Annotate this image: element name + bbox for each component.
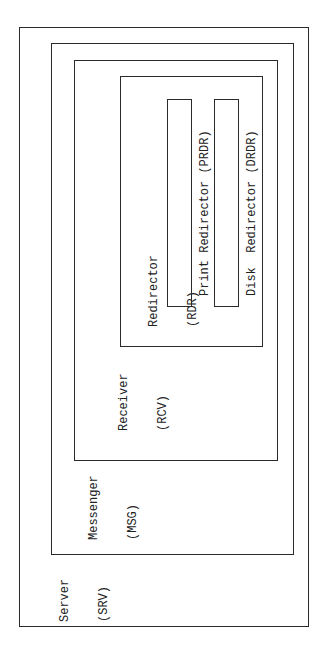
server-abbr: (SRV) (98, 579, 111, 622)
receiver-label: Receiver (RCV) (92, 373, 183, 431)
server-label: Server (SRV) (33, 579, 124, 622)
messenger-abbr: (MSG) (127, 475, 140, 540)
redirector-name: Redirector (148, 255, 161, 327)
print-redirector-text: Print Redirector (PRDR) (199, 130, 212, 296)
messenger-name: Messenger (88, 475, 101, 540)
receiver-name: Receiver (118, 373, 131, 431)
disk-redirector-label: Disk Redirector (DRDR) (220, 130, 272, 296)
receiver-abbr: (RCV) (157, 373, 170, 431)
messenger-label: Messenger (MSG) (62, 475, 153, 540)
server-name: Server (59, 579, 72, 622)
disk-redirector-text: Disk Redirector (DRDR) (246, 130, 259, 296)
